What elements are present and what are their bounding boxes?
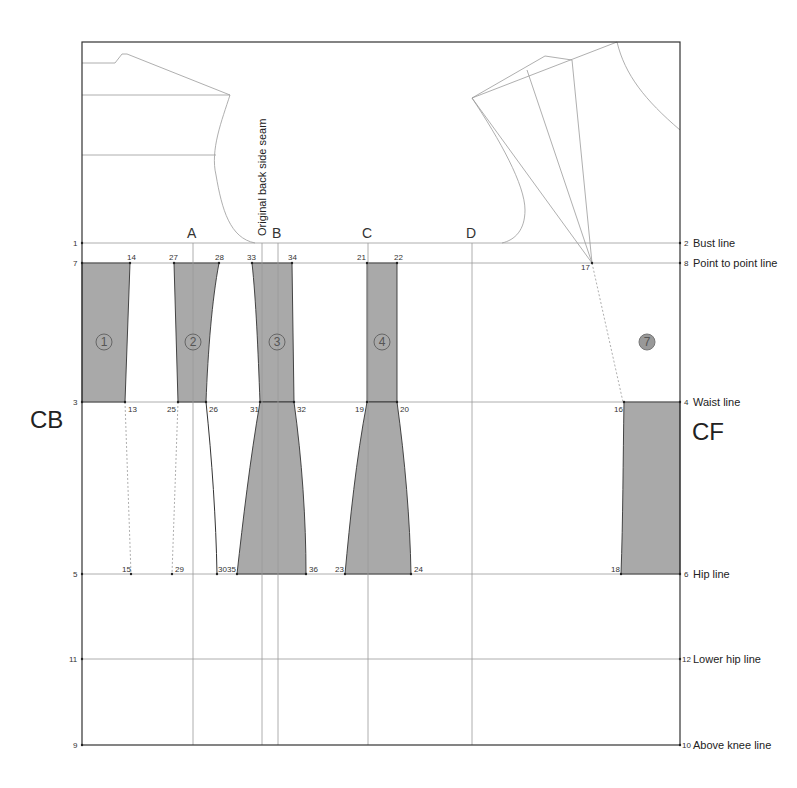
left-point-1: 1 (73, 239, 78, 248)
point-27: 27 (169, 253, 178, 262)
point-18: 18 (611, 565, 620, 574)
panel-4-upper (367, 263, 397, 402)
left-point-11: 11 (69, 655, 78, 664)
left-point-5: 5 (73, 570, 78, 579)
original-seam-label: Original back side seam (256, 119, 268, 236)
right-num-10: 10 (682, 741, 691, 750)
cf-label: CF (692, 418, 724, 445)
seam-26-30 (206, 402, 217, 574)
waist-line-label: Waist line (693, 396, 740, 408)
left-point-7: 7 (73, 259, 78, 268)
panel-2-number: 2 (190, 335, 197, 349)
left-point-9: 9 (73, 741, 78, 750)
front-shoulder-2 (472, 42, 617, 98)
panel-7 (621, 402, 680, 574)
panel-4-number: 4 (379, 335, 386, 349)
panel-3-number: 3 (274, 335, 281, 349)
point-23: 23 (335, 565, 344, 574)
panel-1 (82, 263, 130, 402)
pattern-diagram: 1 2 3 4 7 A B C D Original back side sea… (0, 0, 797, 788)
panel-3-upper (252, 263, 294, 402)
panel-7-number: 7 (644, 335, 651, 349)
left-point-3: 3 (73, 398, 78, 407)
right-num-2: 2 (684, 239, 689, 248)
hip-line-label: Hip line (693, 568, 730, 580)
dart-dashed-line (592, 263, 623, 402)
panel-1-number: 1 (101, 335, 108, 349)
right-num-6: 6 (684, 570, 689, 579)
point-13: 13 (128, 405, 137, 414)
point-31: 31 (250, 405, 259, 414)
dart-leg-3 (472, 98, 592, 263)
back-armhole-curve (214, 95, 255, 243)
right-num-4: 4 (684, 398, 689, 407)
point-26: 26 (209, 405, 218, 414)
bust-line-label: Bust line (693, 237, 735, 249)
point-25: 25 (167, 405, 176, 414)
right-num-12: 12 (682, 655, 691, 664)
above-knee-line-label: Above knee line (693, 739, 771, 751)
point-34: 34 (288, 253, 297, 262)
front-neckline-curve (617, 42, 680, 130)
point-19: 19 (355, 405, 364, 414)
cb-label: CB (30, 406, 63, 433)
point-15: 15 (122, 565, 131, 574)
front-armhole-curve (472, 98, 525, 243)
point-24: 24 (414, 565, 423, 574)
dash-25-29 (172, 402, 178, 574)
point-35: 35 (227, 565, 236, 574)
panel-4-lower (345, 402, 411, 574)
lower-hip-line-label: Lower hip line (693, 653, 761, 665)
point-to-point-line-label: Point to point line (693, 257, 777, 269)
dash-13-15 (125, 402, 131, 574)
point-28: 28 (215, 253, 224, 262)
back-shoulder-line (82, 54, 230, 95)
guide-label-d: D (466, 225, 476, 241)
front-shoulder-1 (472, 56, 572, 98)
guide-label-c: C (362, 225, 372, 241)
point-21: 21 (357, 253, 366, 262)
panel-2 (174, 263, 219, 402)
point-22: 22 (394, 253, 403, 262)
point-32: 32 (297, 405, 306, 414)
panel-3-lower (237, 402, 306, 574)
point-14: 14 (127, 253, 136, 262)
point-29: 29 (175, 565, 184, 574)
point-16: 16 (614, 405, 623, 414)
guide-label-a: A (187, 225, 197, 241)
point-33: 33 (247, 253, 256, 262)
point-20: 20 (400, 405, 409, 414)
right-num-8: 8 (684, 259, 689, 268)
guide-label-b: B (272, 225, 281, 241)
point-36: 36 (309, 565, 318, 574)
point-17: 17 (581, 263, 590, 272)
